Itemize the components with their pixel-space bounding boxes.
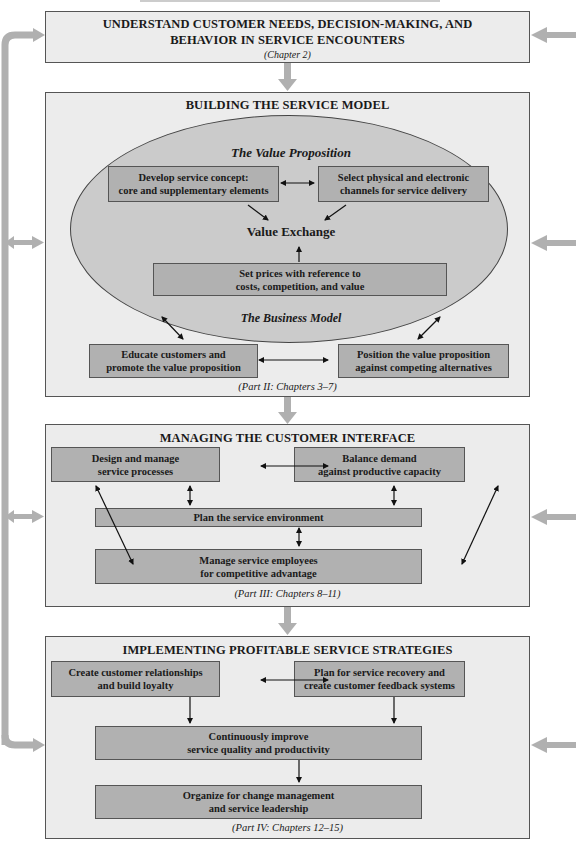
business-model-label: The Business Model (196, 311, 386, 326)
box-line: Plan for service recovery and (304, 666, 455, 679)
panel-title: IMPLEMENTING PROFITABLE SERVICE STRATEGI… (46, 643, 529, 658)
box-line: against productive capacity (318, 465, 441, 478)
box-line: Position the value proposition (355, 348, 492, 361)
feedback-loop-left (5, 35, 34, 745)
box-line: core and supplementary elements (119, 184, 269, 197)
feedback-arrows-right (531, 27, 576, 753)
box-line: Manage service employees (199, 554, 317, 567)
box-line: Educate customers and (106, 348, 241, 361)
position-value-box: Position the value propositionagainst co… (338, 344, 509, 378)
panel-caption: (Part II: Chapters 3–7) (46, 381, 529, 392)
box-line: Organize for change management (183, 789, 335, 802)
box-line: for competitive advantage (199, 567, 317, 580)
panel-title: MANAGING THE CUSTOMER INTERFACE (46, 431, 529, 446)
box-line: and build loyalty (68, 679, 202, 692)
educate-customers-box: Educate customers andpromote the value p… (89, 344, 258, 378)
select-channels-box: Select physical and electronicchannels f… (318, 166, 489, 202)
box-line: Create customer relationships (68, 666, 202, 679)
box-line: Continuously improve (187, 730, 329, 743)
value-proposition-label: The Value Proposition (196, 145, 386, 161)
box-line: against competing alternatives (355, 361, 492, 374)
box-line: create customer feedback systems (304, 679, 455, 692)
service-recovery-box: Plan for service recovery andcreate cust… (294, 661, 465, 697)
panel-caption: (Part IV: Chapters 12–15) (46, 822, 529, 833)
box-line: Plan the service environment (193, 511, 323, 524)
panel-customer-needs: UNDERSTAND CUSTOMER NEEDS, DECISION-MAKI… (45, 11, 530, 63)
box-line: Design and manage (92, 452, 180, 465)
panel-caption: (Part III: Chapters 8–11) (46, 588, 529, 599)
panel-title: BUILDING THE SERVICE MODEL (46, 98, 529, 113)
box-line: Balance demand (318, 452, 441, 465)
panel-caption: (Chapter 2) (46, 49, 529, 60)
cropped-caption-line (140, 0, 440, 2)
box-line: channels for service delivery (338, 184, 469, 197)
develop-service-concept-box: Develop service concept:core and supplem… (108, 166, 279, 202)
panel-profitable-strategies: IMPLEMENTING PROFITABLE SERVICE STRATEGI… (45, 636, 530, 839)
panel-service-model: BUILDING THE SERVICE MODEL The Value Pro… (45, 92, 530, 397)
box-line: service processes (92, 465, 180, 478)
box-line: service quality and productivity (187, 743, 329, 756)
customer-relationships-box: Create customer relationshipsand build l… (51, 661, 220, 697)
box-line: Select physical and electronic (338, 171, 469, 184)
balance-demand-box: Balance demandagainst productive capacit… (294, 447, 465, 482)
value-exchange-label: Value Exchange (216, 224, 366, 240)
box-line: costs, competition, and value (236, 280, 365, 293)
panel-customer-interface: MANAGING THE CUSTOMER INTERFACE Design a… (45, 424, 530, 607)
change-management-box: Organize for change managementand servic… (95, 785, 422, 819)
plan-environment-box: Plan the service environment (95, 508, 422, 527)
manage-employees-box: Manage service employeesfor competitive … (95, 549, 422, 584)
design-processes-box: Design and manageservice processes (51, 447, 220, 482)
set-prices-box: Set prices with reference tocosts, compe… (153, 263, 447, 296)
box-line: and service leadership (183, 802, 335, 815)
box-line: Set prices with reference to (236, 267, 365, 280)
panel-title-line2: BEHAVIOR IN SERVICE ENCOUNTERS (46, 33, 529, 48)
box-line: Develop service concept: (119, 171, 269, 184)
panel-title-line1: UNDERSTAND CUSTOMER NEEDS, DECISION-MAKI… (46, 17, 529, 32)
box-line: promote the value proposition (106, 361, 241, 374)
improve-quality-box: Continuously improveservice quality and … (95, 726, 422, 760)
